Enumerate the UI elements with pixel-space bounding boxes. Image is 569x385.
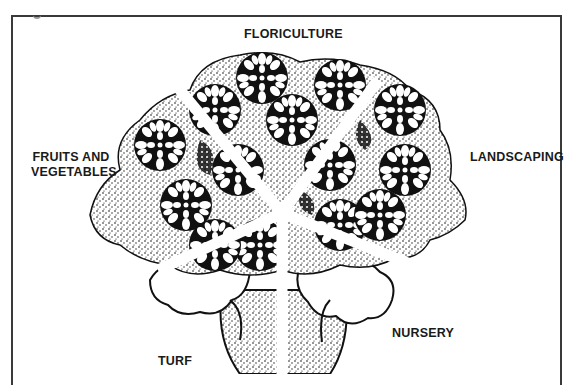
label-fruits-and-vegetables: FRUITS AND VEGETABLES <box>31 150 111 180</box>
label-fruits-line1: FRUITS AND <box>31 150 111 165</box>
label-nursery: NURSERY <box>392 326 454 341</box>
label-fruits-line2: VEGETABLES <box>31 165 111 180</box>
label-landscaping: LANDSCAPING <box>470 150 564 165</box>
label-turf: TURF <box>158 354 192 369</box>
label-floriculture: FLORICULTURE <box>244 27 343 42</box>
